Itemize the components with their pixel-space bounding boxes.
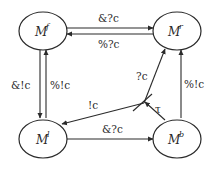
label-b-to-r: %!c <box>184 78 204 90</box>
label-r-to-f: %?c <box>98 38 120 50</box>
label-l-to-f: %!c <box>50 79 70 91</box>
node-m-l: M l <box>19 120 67 158</box>
edge-junction-to-l <box>62 103 144 124</box>
label-l-to-b: &?c <box>102 123 123 135</box>
node-m-b: M b <box>153 120 201 158</box>
state-diagram: M f M r M l M b &?c %?c &!c %!c &?c %!c … <box>0 0 216 170</box>
label-junction-to-r: ?c <box>136 70 148 82</box>
label-tau: τ <box>155 103 161 115</box>
label-f-to-r: &?c <box>98 12 119 24</box>
svg-text:b: b <box>179 130 184 139</box>
label-junction-to-l: !c <box>88 99 98 111</box>
junction-bar <box>133 94 152 111</box>
label-f-to-l: &!c <box>11 79 31 91</box>
node-m-r: M r <box>153 12 201 50</box>
svg-text:l: l <box>47 130 50 139</box>
node-m-f: M f <box>19 12 67 50</box>
